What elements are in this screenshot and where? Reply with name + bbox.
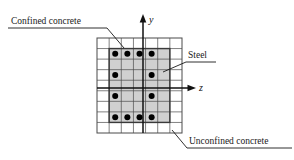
steel-bar-1 <box>124 51 130 57</box>
steel-bar-5 <box>149 72 155 78</box>
steel-bar-2 <box>137 51 143 57</box>
steel-bar-6 <box>112 93 118 99</box>
steel-bar-4 <box>112 72 118 78</box>
y-axis-label: y <box>149 15 153 25</box>
steel-bar-3 <box>149 51 155 57</box>
steel-bar-8 <box>112 114 118 120</box>
rc-section-fiber-diagram: y z Confined concrete Steel Unconfined c… <box>0 0 294 160</box>
y-axis-arrowhead <box>140 14 147 23</box>
steel-bar-9 <box>124 114 130 120</box>
label-confined-concrete: Confined concrete <box>11 17 81 27</box>
steel-bar-7 <box>149 93 155 99</box>
z-axis-label: z <box>199 83 203 93</box>
label-steel: Steel <box>188 51 207 61</box>
label-unconfined-concrete: Unconfined concrete <box>189 137 268 147</box>
z-axis-arrowhead <box>188 85 197 92</box>
steel-bar-10 <box>137 114 143 120</box>
confined-concrete-region <box>109 49 170 123</box>
steel-bar-0 <box>112 51 118 57</box>
steel-bar-11 <box>149 114 155 120</box>
